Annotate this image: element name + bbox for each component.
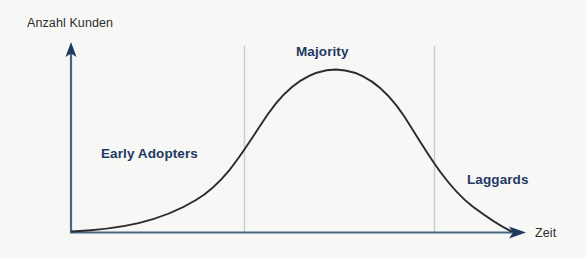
chart-canvas: Anzahl Kunden Zeit Early Adopters Majori… [0, 0, 586, 258]
x-axis-label: Zeit [535, 226, 557, 240]
adoption-curve-diagram: Anzahl Kunden Zeit Early Adopters Majori… [0, 0, 586, 258]
segment-label-laggards: Laggards [467, 172, 529, 187]
chart-background [0, 0, 586, 258]
segment-label-early-adopters: Early Adopters [101, 146, 198, 161]
y-axis-label: Anzahl Kunden [27, 16, 113, 30]
segment-label-majority: Majority [296, 44, 349, 59]
